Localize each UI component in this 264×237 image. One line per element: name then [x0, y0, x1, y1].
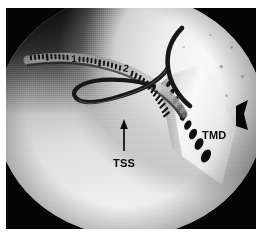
tss-arrow-icon: [6, 8, 256, 229]
figure-root: 1 2 TSS TMD: [0, 0, 264, 237]
tmd-label: TMD: [202, 130, 226, 141]
tss-label: TSS: [113, 158, 135, 169]
arthroscope-frame: 1 2 TSS TMD: [6, 8, 256, 229]
